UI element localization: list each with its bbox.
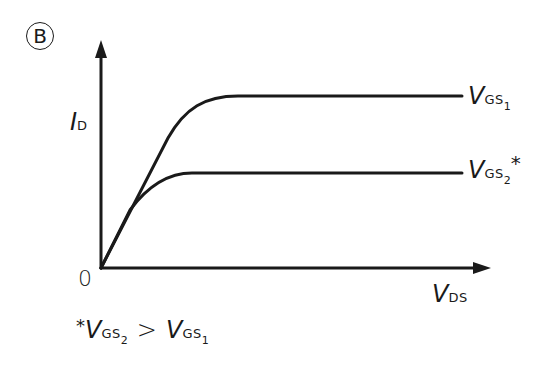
badge-letter: B: [33, 24, 47, 48]
curve1-label-main: V: [468, 82, 484, 110]
y-axis-label: ID: [70, 110, 88, 134]
origin-label: 0: [78, 268, 92, 290]
curve2-label: VGS2*: [468, 158, 521, 182]
curve2-asterisk: *: [511, 151, 521, 175]
figure-badge: B: [26, 22, 54, 50]
x-axis-arrow-icon: [473, 262, 491, 274]
curve1-label-sub: GS: [484, 92, 503, 107]
curve1-label: VGS1: [468, 84, 511, 108]
x-axis-label: VDS: [432, 282, 468, 306]
footnote-asterisk: *: [76, 315, 85, 336]
footnote-rhs-sub: GS: [182, 326, 201, 341]
footnote-lhs-sub: GS: [101, 326, 120, 341]
curve-vgs1: [101, 96, 462, 268]
footnote-rhs-subsub: 1: [202, 334, 209, 347]
footnote-lhs: V: [85, 316, 101, 344]
x-axis-label-main: V: [432, 280, 448, 308]
curve2-label-main: V: [468, 156, 484, 184]
curve2-label-sub: GS: [484, 166, 503, 181]
y-axis-arrow-icon: [95, 40, 107, 58]
iv-characteristic-plot: [0, 0, 543, 366]
y-axis-label-sub: D: [77, 118, 88, 133]
footnote-rhs: V: [166, 316, 182, 344]
footnote: *VGS2 > VGS1: [76, 318, 209, 342]
x-axis-label-sub: DS: [448, 290, 467, 305]
footnote-lhs-subsub: 2: [121, 334, 128, 347]
footnote-operator: >: [137, 316, 157, 344]
curve2-label-subsub: 2: [504, 174, 511, 187]
curve-vgs2: [101, 173, 462, 268]
curve1-label-subsub: 1: [504, 100, 511, 113]
